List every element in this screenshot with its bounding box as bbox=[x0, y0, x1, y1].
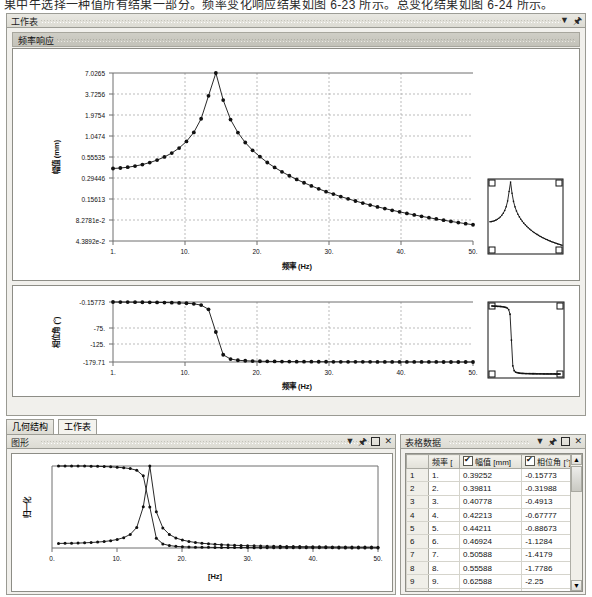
scroll-down-icon[interactable]: ▼ bbox=[571, 580, 582, 591]
tab-worksheet-bottom[interactable]: 工作表 bbox=[58, 419, 97, 434]
graph-panel-controls: ▼ 🖈 ✕ bbox=[346, 436, 392, 447]
maximize-icon[interactable] bbox=[561, 437, 570, 446]
table-row[interactable]: 44.0.42213-0.67777 bbox=[407, 508, 582, 521]
svg-text:1.: 1. bbox=[110, 369, 116, 376]
svg-text:1.: 1. bbox=[110, 248, 116, 255]
svg-text:-179.71: -179.71 bbox=[83, 359, 105, 366]
svg-text:0.55535: 0.55535 bbox=[82, 154, 106, 161]
frequency-response-title-bar: 频率响应 bbox=[12, 32, 580, 47]
amplitude-yaxis-label: 幅值 (mm) bbox=[51, 139, 61, 174]
table-row[interactable]: 77.0.50588-1.4179 bbox=[407, 548, 582, 561]
table-data-panel: 表格数据 ▼ 🖈 ✕ 频率 [ 幅值 [mm] 相位角 [ bbox=[400, 434, 586, 595]
col-amplitude-label: 幅值 [mm] bbox=[475, 458, 511, 467]
cell-freq: 4. bbox=[429, 508, 460, 521]
svg-text:30.: 30. bbox=[324, 248, 333, 255]
col-frequency[interactable]: 频率 [ bbox=[429, 455, 460, 469]
col-rownum bbox=[407, 455, 429, 469]
tab-worksheet-top[interactable]: 工作表 bbox=[11, 15, 38, 28]
table-row[interactable]: 66.0.46924-1.1284 bbox=[407, 535, 582, 548]
worksheet-dock-panel: 工作表 ▼ 🖈 频率响应 bbox=[6, 13, 586, 416]
cell-n: 6 bbox=[407, 535, 429, 548]
cell-freq: 8. bbox=[429, 562, 460, 575]
svg-text:20.: 20. bbox=[252, 248, 261, 255]
chevron-down-icon[interactable]: ▼ bbox=[346, 436, 355, 447]
cell-amp: 0.55588 bbox=[460, 562, 522, 575]
svg-text:40.: 40. bbox=[396, 369, 405, 376]
amplitude-chart[interactable]: 7.0265 3.7256 1.9754 1.0474 0.55535 0.29… bbox=[12, 48, 580, 281]
cell-n: 1 bbox=[407, 469, 429, 482]
scroll-up-icon[interactable]: ▲ bbox=[571, 454, 582, 465]
svg-text:7.0265: 7.0265 bbox=[85, 70, 105, 77]
col-amplitude-checkbox[interactable] bbox=[463, 456, 473, 466]
maximize-icon[interactable] bbox=[371, 437, 380, 446]
normalized-series bbox=[57, 465, 379, 550]
svg-text:3.7256: 3.7256 bbox=[85, 91, 105, 98]
normalized-xaxis-label: [Hz] bbox=[208, 572, 223, 581]
table-row[interactable]: 11.0.39252-0.15773 bbox=[407, 469, 582, 482]
chevron-down-icon[interactable]: ▼ bbox=[536, 436, 545, 447]
svg-text:1.9754: 1.9754 bbox=[85, 112, 105, 119]
normalized-xtick-labels: 0. 10. 20. 30. 40. 50. bbox=[49, 555, 382, 562]
cell-freq: 9. bbox=[429, 575, 460, 588]
close-icon[interactable]: ✕ bbox=[384, 436, 392, 447]
phase-series bbox=[111, 300, 475, 364]
svg-text:20.: 20. bbox=[252, 369, 261, 376]
amplitude-xaxis-label: 频率 (Hz) bbox=[282, 261, 313, 271]
svg-text:30.: 30. bbox=[324, 369, 333, 376]
tab-geometry[interactable]: 几何结构 bbox=[6, 419, 54, 434]
cell-amp: 0.40778 bbox=[460, 495, 522, 508]
cell-freq: 1. bbox=[429, 469, 460, 482]
panel-title-graph: 图形 bbox=[11, 436, 29, 449]
worksheet-tabstrip[interactable]: 工作表 ▼ 🖈 bbox=[6, 13, 586, 28]
cell-freq: 7. bbox=[429, 548, 460, 561]
col-amplitude[interactable]: 幅值 [mm] bbox=[460, 455, 522, 469]
table-row[interactable]: 22.0.39811-0.31988 bbox=[407, 482, 582, 495]
table-vertical-scrollbar[interactable]: ▲ ▼ bbox=[570, 454, 582, 591]
svg-text:1.0474: 1.0474 bbox=[85, 133, 105, 140]
col-phase-checkbox[interactable] bbox=[525, 456, 535, 466]
table-header-row: 频率 [ 幅值 [mm] 相位角 [°] bbox=[407, 455, 582, 469]
col-frequency-label: 频率 [ bbox=[432, 458, 452, 467]
svg-text:40.: 40. bbox=[396, 248, 405, 255]
cell-freq: 6. bbox=[429, 535, 460, 548]
svg-text:4.3892e-2: 4.3892e-2 bbox=[76, 238, 106, 245]
table-row[interactable]: 99.0.62588-2.25 bbox=[407, 575, 582, 588]
pin-icon[interactable]: 🖈 bbox=[358, 436, 367, 447]
table-row[interactable]: 1010.0.72811-2.9043 bbox=[407, 588, 582, 592]
phase-selection-box[interactable] bbox=[488, 302, 564, 378]
cell-n: 2 bbox=[407, 482, 429, 495]
table-row[interactable]: 33.0.40778-0.4913 bbox=[407, 495, 582, 508]
cell-amp: 0.42213 bbox=[460, 508, 522, 521]
table-row[interactable]: 55.0.44211-0.88673 bbox=[407, 522, 582, 535]
svg-text:0.15613: 0.15613 bbox=[82, 196, 106, 203]
cell-freq: 10. bbox=[429, 588, 460, 592]
title-dots bbox=[57, 39, 575, 42]
cell-freq: 5. bbox=[429, 522, 460, 535]
cell-n: 5 bbox=[407, 522, 429, 535]
table-panel-controls: ▼ 🖈 ✕ bbox=[536, 436, 582, 447]
cell-amp: 0.39811 bbox=[460, 482, 522, 495]
panel-title-frequency-response: 频率响应 bbox=[18, 34, 54, 47]
pin-icon[interactable]: 🖈 bbox=[573, 15, 582, 26]
svg-text:30.: 30. bbox=[243, 555, 252, 562]
data-table-container[interactable]: 频率 [ 幅值 [mm] 相位角 [°] 11.0.39252-0.157732… bbox=[405, 453, 583, 592]
chevron-down-icon[interactable]: ▼ bbox=[560, 15, 569, 26]
phase-chart[interactable]: -0.15773 -75. -125. -179.71 1. 10. 20. 3… bbox=[12, 285, 580, 397]
svg-text:50.: 50. bbox=[468, 248, 477, 255]
amplitude-series bbox=[111, 71, 475, 227]
tabstrip-dots bbox=[41, 20, 561, 23]
amplitude-chart-svg: 7.0265 3.7256 1.9754 1.0474 0.55535 0.29… bbox=[13, 49, 579, 280]
svg-text:8.2781e-2: 8.2781e-2 bbox=[76, 217, 106, 224]
table-title-dots bbox=[449, 441, 529, 444]
cell-n: 10 bbox=[407, 588, 429, 592]
svg-text:40.: 40. bbox=[308, 555, 317, 562]
scroll-thumb[interactable] bbox=[571, 466, 582, 492]
pin-icon[interactable]: 🖈 bbox=[548, 436, 557, 447]
panel-title-table-data: 表格数据 bbox=[405, 436, 441, 449]
amplitude-selection-box[interactable] bbox=[488, 179, 563, 254]
normalized-yaxis-label: 归一化 bbox=[22, 496, 32, 518]
close-icon[interactable]: ✕ bbox=[574, 436, 582, 447]
normalized-chart[interactable]: 0. 10. 20. 30. 40. 50. [Hz] 归一化 bbox=[11, 453, 393, 592]
normalized-axes bbox=[52, 466, 378, 552]
table-row[interactable]: 88.0.55588-1.7786 bbox=[407, 562, 582, 575]
